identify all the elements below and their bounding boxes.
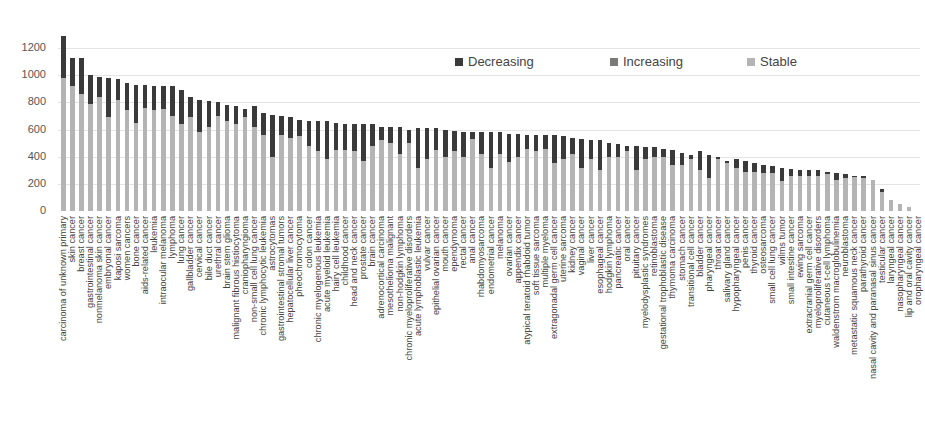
stable-segment [625, 151, 630, 211]
decreasing-segment [207, 101, 212, 127]
decreasing-segment [570, 138, 575, 154]
decreasing-segment [225, 105, 230, 121]
stable-segment [452, 151, 457, 211]
stable-segment [61, 78, 66, 211]
stable-segment [279, 135, 284, 211]
stable-segment [825, 174, 830, 211]
y-tick-label: 800 [0, 95, 46, 107]
stable-segment [843, 178, 848, 211]
decreasing-segment [188, 97, 193, 117]
stable-segment [871, 180, 876, 211]
decreasing-segment [170, 86, 175, 116]
stacked-bar-chart: 020040060080010001200 carcinoma of unkno… [0, 0, 925, 421]
decreasing-segment [861, 176, 866, 179]
decreasing-segment [498, 132, 503, 154]
stable-segment [434, 150, 439, 211]
stable-segment [443, 157, 448, 211]
decreasing-segment [843, 174, 848, 178]
stable-segment [834, 180, 839, 211]
decreasing-segment [561, 136, 566, 159]
decreasing-segment [388, 127, 393, 143]
decreasing-segment [761, 165, 766, 173]
stable-segment [561, 159, 566, 211]
stable-segment [516, 157, 521, 211]
stable-segment [589, 159, 594, 211]
decreasing-segment [589, 140, 594, 159]
stable-segment [361, 161, 366, 211]
stable-segment [470, 139, 475, 211]
stable-segment [498, 154, 503, 211]
decreasing-segment [507, 134, 512, 163]
decreasing-segment [643, 147, 648, 159]
stable-segment [852, 177, 857, 211]
decreasing-segment [489, 132, 494, 167]
decreasing-segment [288, 117, 293, 137]
decreasing-segment [398, 127, 403, 154]
stable-swatch-icon [747, 58, 755, 66]
decreasing-segment [516, 134, 521, 157]
stable-segment [634, 170, 639, 211]
decreasing-segment [116, 79, 121, 99]
decreasing-segment [725, 161, 730, 164]
y-tick-label: 400 [0, 150, 46, 162]
legend-item-decreasing: Decreasing [455, 54, 534, 69]
decreasing-segment [798, 170, 803, 175]
decreasing-segment [743, 161, 748, 172]
decreasing-segment [552, 135, 557, 164]
decreasing-segment [470, 132, 475, 139]
stable-segment [607, 157, 612, 211]
stable-segment [79, 94, 84, 211]
stable-segment [670, 165, 675, 211]
stable-segment [416, 168, 421, 211]
stable-segment [370, 146, 375, 211]
stable-segment [161, 109, 166, 211]
decreasing-segment [88, 75, 93, 104]
legend-item-stable: Stable [747, 54, 797, 69]
decreasing-segment [216, 102, 221, 116]
stable-segment [889, 200, 894, 211]
decreasing-segment [661, 149, 666, 157]
stable-segment [698, 170, 703, 211]
stable-segment [789, 176, 794, 211]
stable-segment [880, 192, 885, 211]
decreasing-segment [134, 85, 139, 123]
stable-segment [270, 157, 275, 211]
decreasing-segment [452, 131, 457, 151]
stable-segment [116, 100, 121, 211]
decreasing-segment [461, 132, 466, 156]
stable-segment [243, 117, 248, 211]
decreasing-segment [416, 128, 421, 167]
decreasing-segment [234, 106, 239, 124]
increasing-swatch-icon [610, 58, 618, 66]
decreasing-segment [79, 58, 84, 95]
decreasing-segment [880, 189, 885, 192]
stable-segment [352, 151, 357, 211]
decreasing-segment [525, 135, 530, 149]
stable-segment [743, 172, 748, 211]
stable-segment [761, 173, 766, 211]
decreasing-segment [61, 36, 66, 78]
stable-segment [598, 170, 603, 211]
decreasing-segment [734, 159, 739, 167]
stable-segment [252, 127, 257, 211]
decreasing-segment [297, 120, 302, 136]
decreasing-segment [616, 144, 621, 156]
decreasing-segment [534, 135, 539, 151]
stable-segment [461, 157, 466, 211]
decreasing-segment [789, 169, 794, 176]
stable-segment [143, 108, 148, 211]
stable-segment [798, 176, 803, 211]
stable-segment [125, 110, 130, 211]
stable-segment [479, 154, 484, 211]
decreasing-segment [197, 100, 202, 133]
legend-label: Increasing [623, 54, 683, 69]
decreasing-segment [370, 124, 375, 146]
decreasing-segment [143, 85, 148, 108]
stable-segment [525, 149, 530, 211]
gridline [58, 48, 920, 49]
decreasing-segment [479, 132, 484, 154]
stable-segment [197, 132, 202, 211]
decreasing-segment [252, 106, 257, 126]
stable-segment [616, 157, 621, 211]
stable-segment [88, 104, 93, 211]
